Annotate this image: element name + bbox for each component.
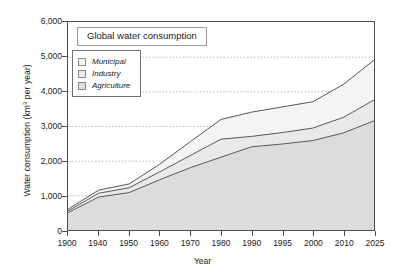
legend-item-agriculture: Agriculture: [78, 80, 130, 91]
chart-legend: Municipal Industry Agriculture: [72, 50, 141, 97]
x-tick-mark-1995: [283, 231, 284, 236]
x-tick-mark-1970: [190, 231, 191, 236]
water-consumption-chart-figure: Water consumption (km3 per year) 6,0005,…: [0, 0, 405, 277]
legend-swatch-municipal: [78, 58, 86, 66]
x-tick-mark-1940: [98, 231, 99, 236]
legend-swatch-agriculture: [78, 82, 86, 90]
x-axis-title: Year: [0, 256, 405, 266]
y-tick-label-2000: 2,000: [28, 157, 62, 166]
y-axis-tick-labels: 6,0005,0004,0003,0002,0001,0000: [28, 0, 62, 277]
chart-title-box: Global water consumption: [77, 27, 207, 46]
legend-label-industry: Industry: [92, 69, 120, 78]
y-tick-label-6000: 6,000: [28, 17, 62, 26]
legend-label-agriculture: Agriculture: [92, 81, 130, 90]
x-tick-mark-2010: [344, 231, 345, 236]
y-tick-label-4000: 4,000: [28, 87, 62, 96]
x-tick-mark-1960: [159, 231, 160, 236]
x-tick-mark-1950: [129, 231, 130, 236]
x-tick-mark-2025: [375, 231, 376, 236]
x-tick-mark-1900: [67, 231, 68, 236]
y-tick-label-1000: 1,000: [28, 192, 62, 201]
x-tick-mark-2000: [313, 231, 314, 236]
y-tick-label-3000: 3,000: [28, 122, 62, 131]
legend-label-municipal: Municipal: [92, 57, 126, 66]
legend-item-industry: Industry: [78, 68, 130, 79]
x-tick-mark-1980: [221, 231, 222, 236]
y-tick-label-0: 0: [28, 227, 62, 236]
y-axis-title-superscript: 3: [22, 102, 28, 105]
legend-swatch-industry: [78, 70, 86, 78]
legend-item-municipal: Municipal: [78, 56, 130, 67]
x-tick-mark-1990: [252, 231, 253, 236]
x-tick-label-2025: 2025: [355, 239, 395, 248]
y-tick-label-5000: 5,000: [28, 52, 62, 61]
